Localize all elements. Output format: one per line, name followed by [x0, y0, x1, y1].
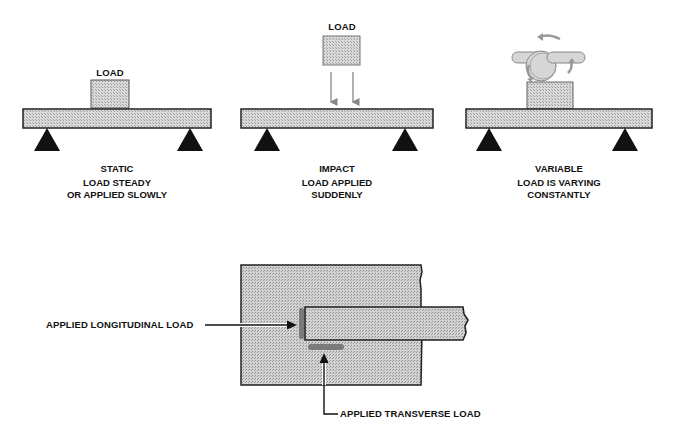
variable-desc-line2: CONSTANTLY — [489, 189, 629, 201]
impact-load-label: LOAD — [322, 21, 362, 32]
impact-beam — [241, 109, 433, 128]
variable-support-right-icon — [612, 128, 638, 151]
joint-diagram — [205, 265, 468, 414]
variable-beam — [466, 109, 652, 128]
impact-desc-line1: LOAD APPLIED — [267, 177, 407, 189]
attached-member — [305, 307, 468, 340]
static-support-left-icon — [34, 128, 60, 151]
variable-shaft-right — [547, 52, 585, 63]
transverse-load-label: APPLIED TRANSVERSE LOAD — [340, 408, 481, 419]
longitudinal-load-label: APPLIED LONGITUDINAL LOAD — [46, 319, 193, 330]
variable-support-left-icon — [476, 128, 502, 151]
impact-panel — [241, 36, 433, 151]
impact-desc-line2: SUDDENLY — [267, 189, 407, 201]
impact-load-block — [323, 36, 360, 65]
transverse-weld — [308, 344, 344, 350]
variable-panel — [466, 33, 652, 151]
static-title: STATIC — [57, 163, 177, 175]
longitudinal-weld — [299, 308, 304, 339]
static-beam — [23, 109, 211, 128]
impact-support-right-icon — [392, 128, 418, 151]
impact-support-left-icon — [254, 128, 280, 151]
rotation-arrow-right-icon — [568, 62, 572, 73]
static-load-label: LOAD — [92, 67, 128, 78]
static-support-right-icon — [177, 128, 203, 151]
variable-load-block — [527, 82, 573, 109]
variable-title: VARIABLE — [499, 163, 619, 175]
variable-desc-line1: LOAD IS VARYING — [489, 177, 629, 189]
diagram-canvas — [0, 0, 673, 434]
static-panel — [23, 80, 211, 151]
static-desc-line1: LOAD STEADY — [47, 177, 187, 189]
static-load-block — [91, 80, 129, 108]
static-desc-line2: OR APPLIED SLOWLY — [47, 189, 187, 201]
impact-title: IMPACT — [277, 163, 397, 175]
